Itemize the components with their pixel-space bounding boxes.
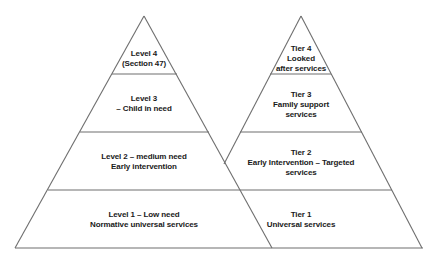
right-tier-3-line-2: Family support [273,100,329,110]
left-tier-4-label: Level 4 (Section 47) [122,49,166,69]
right-tier-1-line-2: Universal services [267,220,335,230]
left-tier-2-line-1: Level 2 – medium need [101,152,187,162]
left-tier-1-label: Level 1 – Low need Normative universal s… [90,210,198,230]
right-tier-3-label: Tier 3 Family support services [273,90,329,120]
right-tier-3-line-1: Tier 3 [273,90,329,100]
right-tier-4-line-2: Looked [276,54,326,64]
pyramid-diagram [0,0,437,264]
right-tier-4-line-1: Tier 4 [276,44,326,54]
left-tier-2-line-2: Early intervention [101,162,187,172]
left-tier-2-label: Level 2 – medium need Early intervention [101,152,187,172]
left-tier-1-line-1: Level 1 – Low need [90,210,198,220]
right-tier-2-line-3: services [248,168,355,178]
right-tier-1-label: Tier 1 Universal services [267,210,335,230]
right-tier-2-label: Tier 2 Early Intervention – Targeted ser… [248,148,355,178]
left-tier-1-line-2: Normative universal services [90,220,198,230]
left-tier-3-line-1: Level 3 [116,94,171,104]
right-tier-2-line-2: Early Intervention – Targeted [248,158,355,168]
right-tier-4-line-3: after services [276,64,326,74]
left-tier-4-line-2: (Section 47) [122,59,166,69]
left-tier-3-label: Level 3 – Child in need [116,94,171,114]
right-tier-2-line-1: Tier 2 [248,148,355,158]
right-tier-4-label: Tier 4 Looked after services [276,44,326,74]
right-tier-3-line-3: services [273,110,329,120]
right-tier-1-line-1: Tier 1 [267,210,335,220]
left-tier-4-line-1: Level 4 [122,49,166,59]
left-tier-3-line-2: – Child in need [116,104,171,114]
